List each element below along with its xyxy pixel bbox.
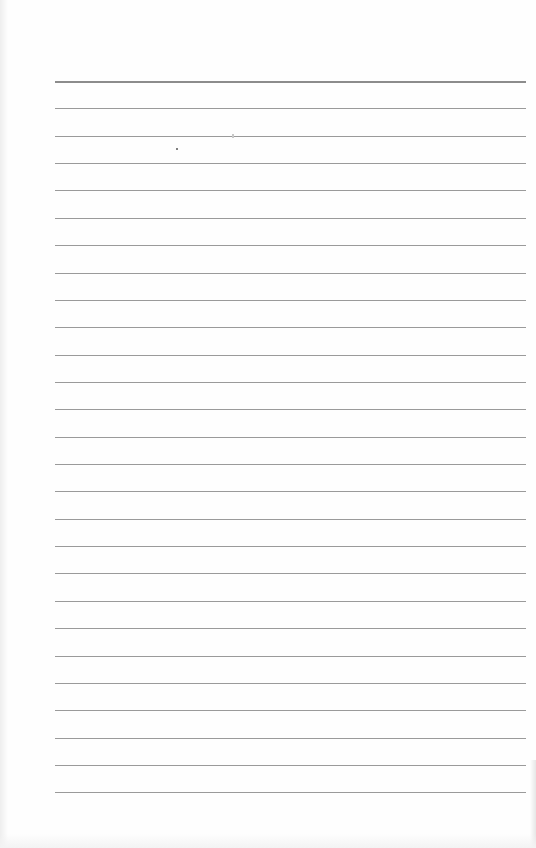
rule-line <box>55 601 526 602</box>
rule-line <box>55 437 526 438</box>
rule-line <box>55 738 526 739</box>
rule-line <box>55 792 526 793</box>
rule-line <box>55 491 526 492</box>
rule-line <box>55 546 526 547</box>
rule-line <box>55 300 526 301</box>
rule-line <box>55 355 526 356</box>
rule-line <box>55 327 526 328</box>
rule-line <box>55 683 526 684</box>
rule-line <box>55 628 526 629</box>
left-edge-shadow <box>0 0 8 848</box>
rule-line <box>55 710 526 711</box>
lined-paper-page <box>0 0 536 848</box>
rule-line <box>55 382 526 383</box>
rule-line <box>55 573 526 574</box>
scan-speck <box>176 148 178 150</box>
rule-line <box>55 190 526 191</box>
rule-line <box>55 136 526 137</box>
rule-line <box>55 464 526 465</box>
rule-line <box>55 273 526 274</box>
rule-line <box>55 245 526 246</box>
rule-line <box>55 163 526 164</box>
bottom-edge-shadow <box>0 834 536 848</box>
rule-line <box>55 108 526 109</box>
rule-line <box>55 218 526 219</box>
rule-line <box>55 519 526 520</box>
rule-line <box>55 656 526 657</box>
top-rule-line <box>55 81 526 83</box>
rule-line <box>55 409 526 410</box>
scan-mark <box>232 134 234 138</box>
rule-line <box>55 765 526 766</box>
